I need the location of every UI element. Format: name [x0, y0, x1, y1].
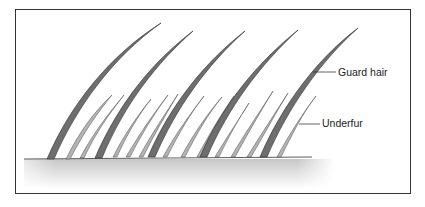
guard-hair-label: Guard hair	[338, 66, 388, 78]
hair-diagram	[0, 0, 425, 207]
skin-surface	[24, 157, 334, 189]
underfur-label: Underfur	[322, 117, 363, 129]
